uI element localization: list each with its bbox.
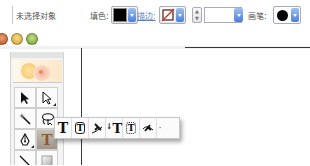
fill-label: 填色: xyxy=(90,10,109,21)
flyout-area-type-tool[interactable]: T xyxy=(72,118,89,138)
tools-panel-header[interactable] xyxy=(11,52,63,58)
minimize-button[interactable] xyxy=(11,33,23,45)
stroke-color-dropdown[interactable] xyxy=(159,6,186,24)
chevron-down-icon xyxy=(291,8,299,22)
selection-status: 未选择对象 xyxy=(16,10,56,21)
illustrator-window: 未选择对象 填色: 描边: ▲▼ 画笔: xyxy=(0,0,310,165)
hollow-arrow-icon xyxy=(41,91,53,105)
pen-tool[interactable] xyxy=(14,129,36,150)
stroke-weight-stepper[interactable]: ▲▼ xyxy=(192,7,202,23)
rectangle-tool[interactable] xyxy=(36,150,58,165)
stroke-weight-dropdown[interactable] xyxy=(234,8,243,22)
type-T-icon: T xyxy=(42,132,52,148)
zoom-button[interactable] xyxy=(26,33,38,45)
flower-logo-icon[interactable] xyxy=(13,60,62,83)
type-on-path-icon xyxy=(90,121,104,135)
brush-round-icon xyxy=(277,10,288,21)
type-T-icon: T xyxy=(58,120,68,136)
chevron-down-icon xyxy=(176,8,184,22)
vertical-type-icon: ↓T xyxy=(106,121,122,136)
brush-dropdown[interactable] xyxy=(273,6,301,24)
lasso-icon xyxy=(40,112,55,126)
magic-wand-icon xyxy=(18,112,32,126)
magic-wand-tool[interactable] xyxy=(14,108,36,129)
stroke-label-link[interactable]: 描边: xyxy=(137,10,156,21)
window-controls xyxy=(0,33,38,45)
vertical-area-type-icon: T xyxy=(126,122,137,134)
brush-label: 画笔: xyxy=(248,10,267,21)
rectangle-icon xyxy=(40,154,54,166)
control-bar-grip[interactable] xyxy=(12,6,13,24)
artboard-left-edge xyxy=(81,48,82,165)
direct-selection-tool[interactable] xyxy=(36,87,58,108)
none-swatch-icon xyxy=(161,8,175,22)
flyout-vertical-type-on-path-tool[interactable] xyxy=(140,118,157,138)
flyout-vertical-type-tool[interactable]: ↓T xyxy=(106,118,123,138)
control-bar: 未选择对象 填色: 描边: ▲▼ 画笔: xyxy=(0,0,310,30)
flyout-vertical-area-type-tool[interactable]: T xyxy=(123,118,140,138)
chevron-down-icon xyxy=(128,8,136,22)
vertical-type-on-path-icon xyxy=(141,121,155,135)
area-type-icon: T xyxy=(75,122,86,134)
line-segment-tool[interactable] xyxy=(14,150,36,165)
fill-color-dropdown[interactable] xyxy=(111,6,138,24)
fill-swatch xyxy=(113,8,127,22)
selection-tool[interactable] xyxy=(14,87,36,108)
arrow-pointer-icon xyxy=(19,91,31,105)
pen-nib-icon xyxy=(19,133,31,147)
flyout-type-tool[interactable]: T xyxy=(55,118,72,138)
flyout-tearoff-handle[interactable]: · xyxy=(157,118,163,138)
close-button[interactable] xyxy=(0,33,8,45)
artboard-top-edge xyxy=(185,47,310,48)
tools-panel: T xyxy=(10,52,64,165)
line-segment-icon xyxy=(18,154,32,166)
type-tool-flyout: T T ↓T T · xyxy=(54,117,180,139)
flyout-type-on-path-tool[interactable] xyxy=(89,118,106,138)
